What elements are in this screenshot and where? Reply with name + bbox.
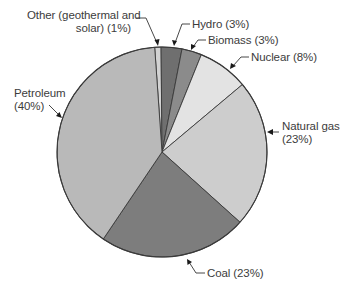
label-other-line2: solar) (1%) [27,22,131,35]
arrowhead-hydro [172,40,177,46]
label-petroleum: Petroleum (40%) [14,87,66,113]
label-biomass: Biomass (3%) [208,34,278,47]
label-petroleum-line1: Petroleum [14,87,66,100]
pie-slices [57,47,267,257]
label-other: Other (geothermal and solar) (1%) [27,9,131,35]
leader-coal [189,262,205,273]
label-coal: Coal (23%) [207,267,264,280]
label-natural-gas: Natural gas (23%) [282,120,340,146]
label-natural-gas-line1: Natural gas [282,120,340,133]
leader-hydro [175,24,190,43]
label-other-line1: Other (geothermal and [27,9,131,22]
label-hydro: Hydro (3%) [192,18,249,31]
label-natural-gas-line2: (23%) [282,133,340,146]
arrowhead-biomass [191,44,196,50]
arrowhead-coal [187,259,192,265]
label-nuclear: Nuclear (8%) [251,51,317,64]
leader-nuclear [233,57,249,66]
arrowhead-other [155,39,160,46]
leader-other [136,18,157,43]
arrowhead-natural-gas [267,129,273,135]
label-petroleum-line2: (40%) [14,100,66,113]
